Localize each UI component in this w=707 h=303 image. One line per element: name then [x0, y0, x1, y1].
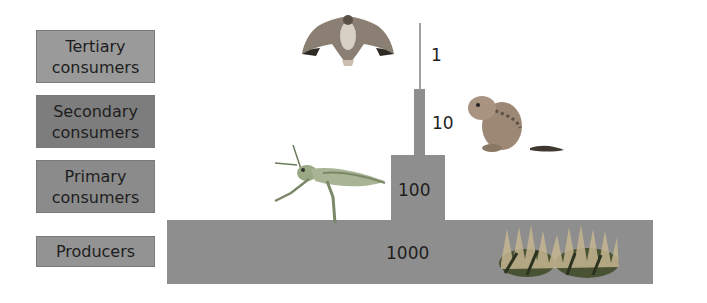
grasshopper-icon — [273, 143, 388, 225]
value-secondary: 10 — [432, 113, 454, 133]
label-line1: Primary — [65, 167, 127, 186]
value-tertiary: 1 — [431, 45, 442, 65]
label-line1: Secondary — [53, 102, 138, 121]
label-tertiary-consumers: Tertiaryconsumers — [36, 30, 155, 83]
value-primary: 100 — [398, 180, 430, 200]
bar-tertiary-consumers — [419, 23, 421, 90]
label-line2: consumers — [52, 123, 140, 142]
label-line2: consumers — [52, 188, 140, 207]
label-producers: Producers — [36, 236, 155, 267]
label-line2: consumers — [52, 58, 140, 77]
label-primary-consumers: Primaryconsumers — [36, 160, 155, 213]
label-line1: Producers — [56, 241, 135, 262]
value-producers: 1000 — [386, 243, 429, 263]
bar-secondary-consumers — [414, 89, 425, 156]
grass-icon — [497, 223, 622, 281]
label-secondary-consumers: Secondaryconsumers — [36, 95, 155, 148]
hawk-icon — [298, 8, 398, 66]
label-line1: Tertiary — [65, 37, 125, 56]
squirrel-icon — [460, 88, 565, 154]
